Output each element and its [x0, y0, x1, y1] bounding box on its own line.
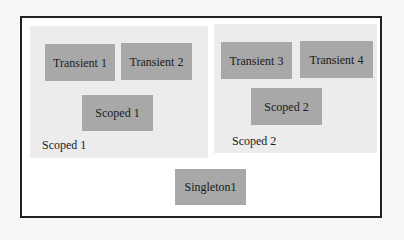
scope-region-1-label: Scoped 1 [42, 138, 86, 152]
transient-1-box: Transient 1 [45, 44, 115, 81]
transient-3-box: Transient 3 [221, 42, 292, 79]
scope-region-2-label: Scoped 2 [232, 134, 276, 148]
transient-4-box: Transient 4 [300, 41, 373, 78]
scoped-1-box: Scoped 1 [82, 95, 153, 131]
transient-2-box: Transient 2 [121, 43, 192, 80]
scoped-2-box: Scoped 2 [251, 88, 322, 125]
singleton-box: Singleton1 [175, 169, 246, 205]
